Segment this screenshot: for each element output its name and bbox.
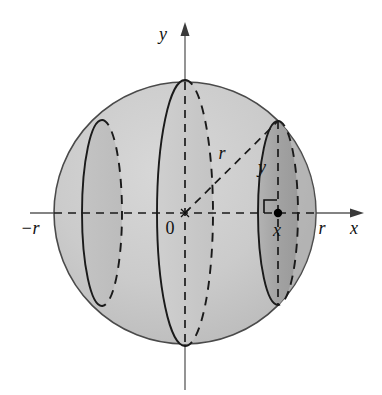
x-position-label: x	[272, 220, 281, 240]
sphere-cross-section-diagram: y x −r 0 r r y x	[0, 0, 382, 395]
radius-label: r	[218, 143, 226, 163]
pos-r-label: r	[318, 218, 326, 238]
y-axis-arrowhead	[181, 22, 190, 36]
x-axis-arrowhead	[350, 209, 364, 218]
y-axis-label: y	[157, 24, 167, 44]
neg-r-label: −r	[20, 218, 40, 238]
figure-root: y x −r 0 r r y x	[0, 0, 382, 395]
x-axis-label: x	[349, 218, 358, 238]
sample-point-dot	[274, 209, 282, 217]
origin-label: 0	[166, 218, 175, 238]
y-height-label: y	[256, 157, 266, 177]
